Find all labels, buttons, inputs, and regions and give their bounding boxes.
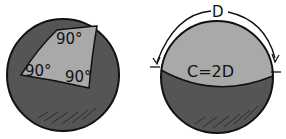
- arrow-head-right-icon: [272, 54, 279, 62]
- angle-label-right: 90°: [65, 68, 92, 86]
- angle-label-left: 90°: [25, 62, 52, 80]
- spherical-geometry-figure: 90° 90° 90° D C=2D: [0, 0, 286, 139]
- arrow-head-left-icon: [153, 57, 160, 64]
- arc-label-d: D: [212, 3, 224, 21]
- right-sphere: D C=2D: [150, 3, 281, 139]
- angle-label-top: 90°: [56, 30, 83, 48]
- formula-label: C=2D: [187, 62, 234, 81]
- left-sphere: 90° 90° 90°: [7, 19, 119, 131]
